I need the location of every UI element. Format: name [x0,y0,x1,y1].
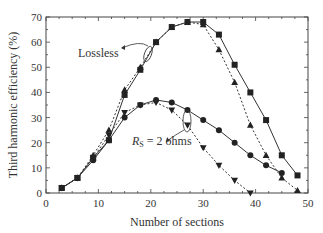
y-tick-label: 70 [31,11,43,23]
x-axis-label: Number of sections [130,215,224,229]
x-tick-label: 40 [250,197,262,209]
y-axis-label: Third harmonic efficiency (%) [6,32,20,179]
y-tick-label: 20 [31,137,43,149]
chart: 01020304050010203040506070Number of sect… [0,0,323,233]
y-tick-label: 10 [31,162,43,174]
x-tick-label: 50 [303,197,315,209]
x-tick-label: 20 [145,197,157,209]
y-tick-label: 50 [31,61,43,73]
x-tick-label: 30 [198,197,210,209]
x-tick-label: 10 [93,197,105,209]
y-tick-label: 30 [31,112,43,124]
annotation-lossless: Lossless [78,46,119,60]
y-tick-label: 40 [31,86,43,98]
series-3 [58,100,253,197]
annotations: LosslessRS = 2 ohms [78,43,192,149]
x-tick-label: 0 [43,197,49,209]
annotation-rs-2-ohms: RS = 2 ohms [131,134,192,149]
y-tick-label: 60 [31,36,43,48]
y-tick-label: 0 [37,187,43,199]
